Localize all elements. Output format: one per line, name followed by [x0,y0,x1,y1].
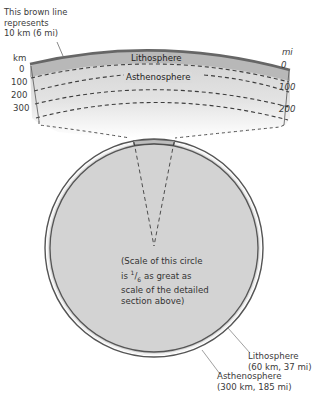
asthenosphere-callout-thickness: (300 km, 185 mi) [217,382,292,393]
circle-note-line4: section above) [121,296,209,307]
mi-tick-0: 0 [281,60,286,70]
mi-tick-200: 200 [279,104,295,114]
km-tick-100: 100 [11,77,27,87]
brown-line-callout-line3: 10 km (6 mi) [4,28,67,39]
km-unit-label: km [13,53,26,63]
earth-circle-fill [50,144,258,352]
lithosphere-callout-leader [228,328,250,353]
circle-scale-note: (Scale of this circle is 1/6 as great as… [121,256,209,307]
brown-line-callout: This brown line represents 10 km (6 mi) [4,7,67,39]
circle-note-line3: scale of the detailed [121,285,209,296]
asthenosphere-callout: Asthenosphere (300 km, 185 mi) [217,371,292,392]
lithosphere-label: Lithosphere [131,53,182,64]
mi-tick-100: 100 [279,82,295,92]
mi-unit-label: mi [282,47,293,57]
asthenosphere-callout-title: Asthenosphere [217,371,292,382]
km-tick-200: 200 [11,90,27,100]
km-tick-300: 300 [13,103,29,113]
circle-note-line1: (Scale of this circle [121,256,209,267]
brown-line-callout-line1: This brown line [4,7,67,18]
brown-line-callout-line2: represents [4,18,67,29]
lithosphere-callout-title: Lithosphere [248,351,312,362]
asthenosphere-label: Asthenosphere [124,72,192,83]
lithosphere-callout: Lithosphere (60 km, 37 mi) [248,351,312,372]
km-tick-0: 0 [19,64,24,74]
circle-note-line2: is 1/6 as great as [121,267,209,285]
brown-line-callout-leader [57,42,63,56]
